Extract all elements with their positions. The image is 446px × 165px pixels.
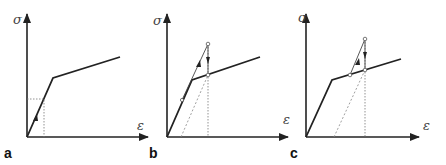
- x-axis-label: ε: [283, 112, 290, 127]
- down-arrow-icon: [363, 52, 367, 59]
- unloading-dashed-line: [181, 75, 208, 137]
- x-axis-label: ε: [423, 118, 430, 133]
- down-arrow-icon: [206, 57, 210, 64]
- y-axis-label: σ: [13, 12, 23, 27]
- trial-path: [350, 39, 365, 75]
- corrected-point-marker: [363, 68, 367, 72]
- unloading-dashed-line: [334, 70, 365, 137]
- panel-c: σ ε c: [290, 10, 430, 161]
- y-axis-label: σ: [153, 13, 163, 28]
- bilinear-curve: [27, 57, 120, 137]
- x-axis-label: ε: [137, 118, 144, 133]
- panel-a: σ ε a: [4, 12, 148, 161]
- bilinear-curve: [167, 57, 260, 137]
- trial-path: [182, 44, 208, 100]
- panel-label: c: [290, 145, 298, 161]
- trial-point-marker: [206, 42, 210, 46]
- start-point-marker: [180, 98, 183, 101]
- panel-b: σ ε b: [149, 13, 290, 161]
- stress-strain-figure: σ ε a σ ε b σ ε c: [0, 0, 446, 165]
- trial-point-marker: [363, 37, 367, 41]
- start-point-marker: [348, 73, 352, 77]
- panel-label: a: [4, 145, 12, 161]
- y-axis-label: σ: [298, 10, 308, 25]
- corrected-point-marker: [206, 73, 210, 77]
- panel-label: b: [149, 145, 158, 161]
- bilinear-curve: [306, 59, 401, 137]
